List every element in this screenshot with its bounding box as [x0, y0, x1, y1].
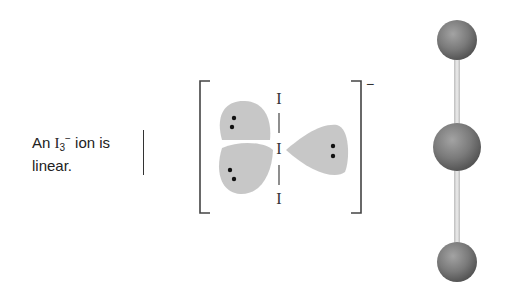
ball-and-stick-model: [433, 20, 481, 282]
lone-pair-lobe-lower: [219, 143, 273, 194]
bracket-right: [351, 81, 361, 213]
atom-sphere-top: [437, 20, 477, 60]
bracket-left: [200, 81, 210, 213]
atom-i-bottom: I: [273, 190, 285, 208]
atom-i-top: I: [273, 90, 285, 108]
atom-i-center: I: [273, 140, 285, 158]
atom-sphere-center: [433, 123, 481, 171]
ion-charge: −: [366, 76, 374, 92]
lone-pair-lobe-right: [286, 125, 348, 175]
lone-pair-lobe-upper: [220, 101, 271, 140]
atom-sphere-bottom: [437, 242, 477, 282]
diagram-graphics: [0, 0, 519, 290]
